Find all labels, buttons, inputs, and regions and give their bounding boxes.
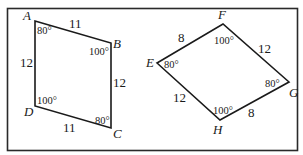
diagram-canvas: A B C D 80° 100° 80° 100° 11 12 11 12 E … [0,0,303,155]
side-label-he: 12 [173,90,186,105]
vertex-label-h: H [212,122,223,137]
vertex-label-c: C [113,126,122,141]
angle-label-f: 100° [214,35,234,46]
vertex-label-a: A [22,8,31,23]
side-label-gh: 8 [248,105,255,120]
side-label-ef: 8 [178,30,185,45]
angle-label-d: 100° [37,95,57,106]
vertex-label-g: G [289,85,299,100]
vertex-label-b: B [113,36,121,51]
angle-label-g: 80° [265,78,280,89]
quad-abcd-outline [35,21,111,128]
angle-label-c: 80° [95,115,110,126]
angle-label-b: 100° [89,46,109,57]
angle-label-a: 80° [37,25,52,36]
side-label-fg: 12 [258,41,271,56]
angle-label-e: 80° [164,59,179,70]
side-label-cd: 11 [63,120,76,135]
side-label-ab: 11 [69,16,82,31]
quadrilateral-abcd: A B C D 80° 100° 80° 100° 11 12 11 12 [20,8,126,141]
side-label-bc: 12 [113,75,126,90]
vertex-label-d: D [23,104,34,119]
quadrilateral-efgh: E F G H 80° 100° 80° 100° 8 12 8 12 [145,7,299,137]
vertex-label-e: E [145,55,154,70]
side-label-da: 12 [20,55,33,70]
vertex-label-f: F [217,7,227,22]
angle-label-h: 100° [213,105,233,116]
